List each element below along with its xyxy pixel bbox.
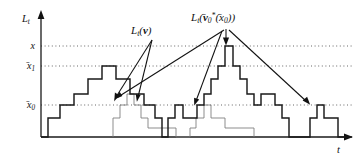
- primary-staircase: [41, 46, 352, 137]
- annotation-label-lt-v0star: Lt(̄v0*(̄x0)): [190, 11, 235, 25]
- y-axis-arrowhead: [38, 10, 45, 19]
- leader-lt-v-right-arrowhead: [136, 94, 141, 102]
- y-tick-label-x: x: [30, 40, 36, 51]
- axes-group: [38, 10, 353, 140]
- step-function-chart: Lt t x ̄x1 ̄x0 Lt(v) Lt(̄v0*(̄x0)): [0, 0, 364, 159]
- figure-container: Lt t x ̄x1 ̄x0 Lt(v) Lt(̄v0*(̄x0)): [0, 0, 364, 159]
- gridlines-group: [41, 46, 352, 105]
- y-axis-label: Lt: [21, 13, 31, 26]
- annotation-label-lt-v: Lt(v): [130, 24, 152, 38]
- x-axis-label: t: [337, 144, 341, 155]
- leader-lt-v-left: [116, 40, 152, 97]
- leader-lt-v-right: [138, 40, 152, 97]
- leader-v0star-down-arrowhead: [223, 38, 229, 46]
- y-tick-label-xbar0: ̄x0: [26, 99, 35, 112]
- leader-v0star-right-arrowhead: [303, 97, 311, 105]
- y-tick-label-xbar1: ̄x1: [26, 60, 35, 73]
- y-tick-labels-group: x ̄x1 ̄x0: [26, 40, 36, 112]
- leader-v0star-farleft: [118, 30, 224, 97]
